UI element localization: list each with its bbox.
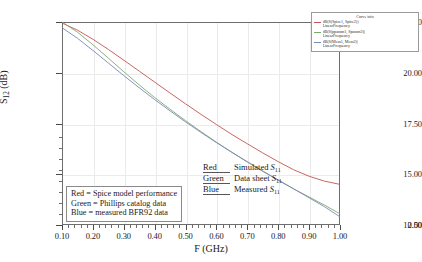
x-minor-tick <box>111 225 112 228</box>
legend-color-swatch <box>314 32 321 33</box>
legend-entry-text: dB(S(Meas1, Meas2))LinearFrequency <box>323 40 359 50</box>
x-tick-mark <box>278 225 279 230</box>
x-tick-mark <box>186 225 187 230</box>
x-minor-tick <box>321 225 322 228</box>
x-minor-tick <box>167 225 168 228</box>
x-minor-tick <box>266 225 267 228</box>
curve-info-legend-row: dB(S(Spice1, Spice2))LinearFrequency <box>314 20 416 30</box>
x-minor-tick <box>198 225 199 228</box>
x-minor-tick <box>315 225 316 228</box>
x-minor-tick <box>130 225 131 228</box>
legend-entry-sweep: LinearFrequency <box>323 44 359 49</box>
x-minor-tick <box>192 225 193 228</box>
chart-figure: S12 (dB) 0.0012.5015.0017.5020.0022.50 0… <box>0 0 422 262</box>
note-line: Red = Spice model performance <box>71 189 177 199</box>
color-key-row: RedSimulated S11 <box>203 162 282 173</box>
y-axis-title-subscript: 12 <box>3 91 11 98</box>
y-tick-label: 17.50 <box>370 120 422 129</box>
x-tick-mark <box>124 225 125 230</box>
y-tick-label: 15.00 <box>370 170 422 179</box>
x-minor-tick <box>254 225 255 228</box>
legend-entry-sweep: LinearFrequency <box>323 34 366 39</box>
x-tick-mark <box>309 225 310 230</box>
curve-red <box>62 23 340 184</box>
x-minor-tick <box>161 225 162 228</box>
x-tick-mark <box>247 225 248 230</box>
curve-info-legend: Curve info dB(S(Spice1, Spice2))LinearFr… <box>311 12 419 52</box>
legend-entry-text: dB(S(Spice1, Spice2))LinearFrequency <box>323 20 359 30</box>
x-minor-tick <box>229 225 230 228</box>
x-minor-tick <box>272 225 273 228</box>
x-minor-tick <box>210 225 211 228</box>
legend-entry-text: dB(S(pparam1, Sparam2))LinearFrequency <box>323 30 366 40</box>
color-key: RedSimulated S11GreenData sheet S11BlueM… <box>203 162 282 195</box>
x-tick-mark <box>340 225 341 230</box>
x-minor-tick <box>235 225 236 228</box>
curve-info-legend-rows: dB(S(Spice1, Spice2))LinearFrequencydB(S… <box>314 20 416 50</box>
x-minor-tick <box>334 225 335 228</box>
x-tick-mark <box>216 225 217 230</box>
x-minor-tick <box>284 225 285 228</box>
legend-color-swatch <box>314 22 321 23</box>
legend-entry-sweep: LinearFrequency <box>323 24 359 29</box>
x-minor-tick <box>223 225 224 228</box>
x-minor-tick <box>142 225 143 228</box>
x-tick-label: 1.00 <box>320 232 360 241</box>
y-axis-title-unit: (dB) <box>0 70 9 91</box>
x-minor-tick <box>105 225 106 228</box>
x-minor-tick <box>68 225 69 228</box>
color-key-row: BlueMeasured S11 <box>203 184 282 195</box>
y-axis-title-base: S <box>0 98 9 104</box>
x-axis-title: F (GHz) <box>0 243 422 254</box>
color-key-color-name: Green <box>203 173 230 184</box>
x-minor-tick <box>291 225 292 228</box>
color-key-row: GreenData sheet S11 <box>203 173 282 184</box>
x-minor-tick <box>303 225 304 228</box>
curve-info-legend-row: dB(S(Meas1, Meas2))LinearFrequency <box>314 40 416 50</box>
x-minor-tick <box>204 225 205 228</box>
x-minor-tick <box>87 225 88 228</box>
x-minor-tick <box>136 225 137 228</box>
color-key-color-name: Red <box>203 162 230 173</box>
note-box: Red = Spice model performanceGreen = Phi… <box>66 186 182 222</box>
x-minor-tick <box>241 225 242 228</box>
x-tick-mark <box>155 225 156 230</box>
y-tick-label: 20.00 <box>370 69 422 78</box>
note-line: Blue = measured BFR92 data <box>71 208 177 218</box>
curve-info-legend-row: dB(S(pparam1, Sparam2))LinearFrequency <box>314 30 416 40</box>
x-minor-tick <box>74 225 75 228</box>
x-minor-tick <box>118 225 119 228</box>
x-minor-tick <box>328 225 329 228</box>
color-key-color-name: Blue <box>203 184 230 195</box>
legend-color-swatch <box>314 42 321 43</box>
y-tick-label: 12.50 <box>370 221 422 230</box>
note-line: Green = Phillips catalog data <box>71 199 177 209</box>
x-minor-tick <box>260 225 261 228</box>
x-minor-tick <box>99 225 100 228</box>
x-minor-tick <box>148 225 149 228</box>
color-key-description: Measured S11 <box>234 184 280 197</box>
x-minor-tick <box>81 225 82 228</box>
y-axis-title: S12 (dB) <box>0 70 11 104</box>
x-tick-mark <box>93 225 94 230</box>
curve-info-legend-title: Curve info <box>314 14 416 19</box>
x-minor-tick <box>297 225 298 228</box>
x-tick-mark <box>62 225 63 230</box>
x-minor-tick <box>179 225 180 228</box>
x-minor-tick <box>173 225 174 228</box>
